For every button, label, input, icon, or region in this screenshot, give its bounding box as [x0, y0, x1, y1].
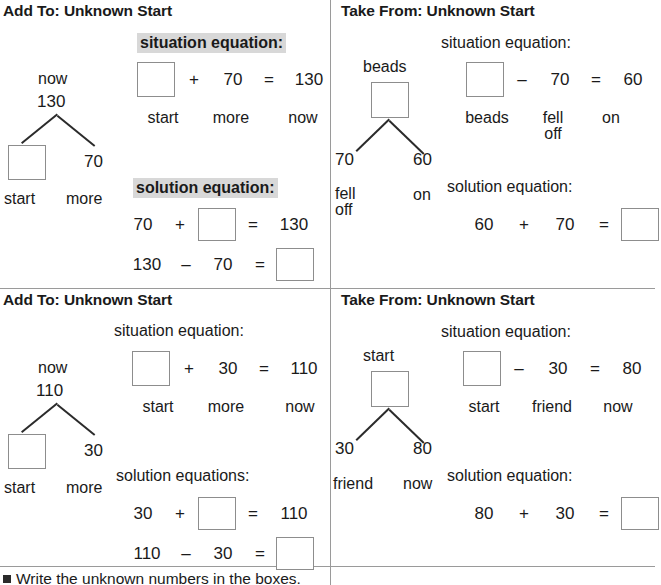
situation-answer-box[interactable]	[463, 351, 501, 386]
solution-r1-answer-box[interactable]	[621, 497, 659, 530]
tree-right-foot-label: more	[66, 479, 102, 497]
tree-top-answer-box[interactable]	[371, 371, 409, 407]
situation-equation-row: + 70 = 130	[137, 62, 333, 97]
tree-left-answer-box[interactable]	[8, 434, 46, 469]
situation-equation-heading: situation equation:	[441, 34, 571, 52]
solution-r1-total: 110	[270, 504, 318, 524]
tree-left-foot-label: start	[4, 190, 35, 208]
situation-answer-box[interactable]	[466, 62, 504, 97]
situation-equals: =	[580, 70, 612, 90]
situation-label-1: beads	[459, 110, 515, 126]
solution-r1-equals: =	[236, 504, 270, 524]
solution-equation-row-1: 70 + = 130	[124, 208, 318, 241]
situation-label-3: now	[276, 399, 324, 415]
panel-title: Take From: Unknown Start	[341, 291, 535, 309]
situation-word-labels: beads felloff on	[459, 110, 659, 146]
situation-label-2: friend	[523, 399, 581, 415]
tree-left-foot-label: felloff	[335, 186, 375, 219]
tree-left-value: 70	[335, 150, 354, 170]
solution-r1-tok-1: 60	[463, 215, 505, 235]
tree-right-leg	[57, 115, 95, 146]
tree-total-value: 110	[36, 381, 63, 401]
solution-equation-heading: solution equation:	[447, 178, 572, 196]
solution-r1-operator: +	[505, 215, 543, 235]
solution-r2-equals: =	[244, 255, 276, 275]
solution-equation-row-2: 130 – 70 =	[124, 248, 314, 281]
tree-right-foot-label: on	[413, 186, 431, 204]
situation-label-2: felloff	[531, 110, 575, 143]
situation-equation-heading: situation equation:	[441, 323, 571, 341]
situation-addend: 70	[213, 70, 253, 90]
situation-result: 80	[611, 359, 653, 379]
situation-label-2: more	[205, 110, 257, 126]
tree-left-leg	[21, 403, 58, 433]
solution-r1-operator: +	[505, 504, 543, 524]
situation-label-3: now	[279, 110, 327, 126]
solution-r2-operator: –	[170, 255, 202, 275]
situation-equation-row: – 30 = 80	[463, 351, 653, 386]
solution-r1-equals: =	[587, 215, 621, 235]
bottom-instruction-text: Write the unknown numbers in the boxes.	[16, 570, 301, 585]
solution-r2-tok-3: 30	[202, 544, 244, 564]
solution-r2-equals: =	[244, 544, 276, 564]
solution-r2-tok-1: 130	[124, 255, 170, 275]
tree-left-leg	[356, 408, 390, 441]
bottom-instruction: Write the unknown numbers in the boxes.	[3, 570, 653, 585]
situation-result: 60	[612, 70, 654, 90]
situation-word-labels: start more now	[132, 399, 332, 419]
problem-panel-add-to-2: Add To: Unknown Start now 110 30 start m…	[0, 289, 330, 577]
solution-r1-equals: =	[587, 504, 621, 524]
panel-title: Take From: Unknown Start	[341, 2, 535, 20]
tree-right-leg	[57, 404, 95, 435]
tree-right-value: 30	[84, 441, 103, 461]
situation-operator: –	[501, 359, 537, 379]
solution-r1-total: 130	[270, 215, 318, 235]
solution-r1-tok-3: 70	[543, 215, 587, 235]
tree-top-label: now	[38, 70, 67, 88]
situation-operator: –	[504, 70, 540, 90]
panel-title: Add To: Unknown Start	[3, 291, 172, 309]
situation-operator: +	[170, 359, 208, 379]
solution-r1-operator: +	[162, 215, 198, 235]
situation-word-labels: start more now	[137, 110, 333, 130]
tree-top-label: now	[38, 359, 67, 377]
solution-equation-row-1: 80 + 30 =	[463, 497, 659, 530]
situation-answer-box[interactable]	[132, 351, 170, 386]
situation-equals: =	[253, 70, 285, 90]
solution-equation-heading: solution equations:	[116, 467, 249, 485]
situation-equation-heading: situation equation:	[137, 33, 286, 53]
solution-r1-tok-1: 30	[124, 504, 162, 524]
solution-r1-tok-1: 70	[124, 215, 162, 235]
tree-top-answer-box[interactable]	[371, 82, 409, 118]
tree-right-value: 60	[413, 150, 432, 170]
tree-right-foot-label: now	[403, 475, 432, 493]
tree-left-answer-box[interactable]	[8, 145, 46, 180]
solution-r2-answer-box[interactable]	[276, 248, 314, 281]
solution-r1-answer-box[interactable]	[198, 208, 236, 241]
situation-label-2: more	[200, 399, 252, 415]
solution-r1-operator: +	[162, 504, 198, 524]
solution-r1-answer-box[interactable]	[198, 497, 236, 530]
tree-top-label: beads	[363, 58, 407, 76]
tree-left-leg	[21, 114, 58, 144]
solution-r2-tok-3: 70	[202, 255, 244, 275]
situation-label-1: start	[459, 399, 509, 415]
tree-right-value: 80	[413, 439, 432, 459]
solution-r1-tok-1: 80	[463, 504, 505, 524]
problem-panel-take-from-2: Take From: Unknown Start start 30 80 fri…	[331, 289, 661, 577]
situation-answer-box[interactable]	[137, 62, 175, 97]
solution-r1-tok-3: 30	[543, 504, 587, 524]
situation-equation-heading: situation equation:	[114, 322, 244, 340]
tree-left-leg	[356, 119, 390, 152]
solution-equation-row-1: 30 + = 110	[124, 497, 318, 530]
square-bullet-icon	[3, 575, 11, 583]
solution-r2-operator: –	[170, 544, 202, 564]
solution-r2-answer-box[interactable]	[276, 537, 314, 570]
situation-operator: +	[175, 70, 213, 90]
solution-r2-tok-1: 110	[124, 544, 170, 564]
situation-addend: 30	[208, 359, 248, 379]
solution-equation-row-1: 60 + 70 =	[463, 208, 659, 241]
solution-r1-answer-box[interactable]	[621, 208, 659, 241]
tree-left-foot-line2: off	[335, 201, 353, 218]
